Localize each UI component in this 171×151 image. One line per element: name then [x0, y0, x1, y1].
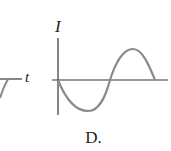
current-axis-label: I — [54, 17, 62, 36]
left-curve-fragment — [0, 79, 8, 98]
graph-d: I — [52, 17, 168, 115]
left-graph-fragment: t — [0, 69, 30, 98]
left-t-label: t — [25, 69, 30, 85]
graph-caption: D. — [0, 128, 171, 148]
